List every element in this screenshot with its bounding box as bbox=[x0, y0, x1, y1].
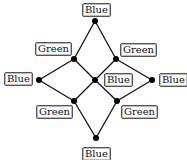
edge-ul-l bbox=[39, 59, 74, 80]
node-label-top: Blue bbox=[82, 3, 111, 17]
node-ll bbox=[71, 98, 77, 104]
node-label-c: Blue bbox=[104, 73, 133, 87]
node-ul bbox=[71, 56, 77, 62]
node-r bbox=[149, 77, 155, 83]
node-label-ul: Green bbox=[35, 42, 72, 56]
node-lr bbox=[114, 98, 120, 104]
edge-top-ul bbox=[74, 21, 95, 59]
node-c bbox=[92, 77, 98, 83]
edge-ul-c bbox=[74, 59, 95, 80]
node-bot bbox=[93, 135, 99, 141]
node-l bbox=[36, 77, 42, 83]
node-label-r: Blue bbox=[159, 73, 187, 87]
node-ur bbox=[113, 56, 119, 62]
node-top bbox=[92, 18, 98, 24]
edge-top-ur bbox=[95, 21, 116, 59]
node-label-ll: Green bbox=[36, 105, 73, 119]
edge-l-ll bbox=[39, 80, 74, 101]
edge-ll-bot bbox=[74, 101, 96, 138]
node-label-lr: Green bbox=[121, 105, 158, 119]
edge-lr-bot bbox=[96, 101, 117, 138]
edge-c-ll bbox=[74, 80, 95, 101]
node-label-l: Blue bbox=[4, 72, 33, 86]
node-label-bot: Blue bbox=[82, 147, 111, 160]
node-label-ur: Green bbox=[120, 43, 157, 57]
